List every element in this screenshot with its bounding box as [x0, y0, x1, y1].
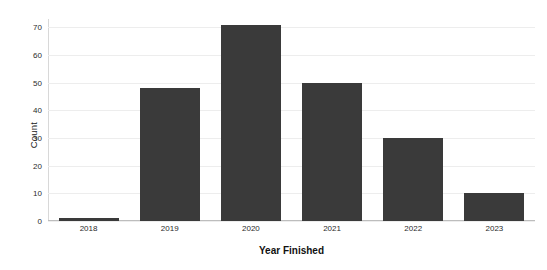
- y-tick-label: 60: [8, 50, 48, 59]
- y-tick-label: 70: [8, 23, 48, 32]
- y-axis-ticks: 010203040506070: [0, 19, 48, 221]
- y-tick-label: 0: [8, 217, 48, 226]
- bar-slot: [292, 19, 373, 221]
- bar[interactable]: [140, 88, 200, 221]
- x-axis-title: Year Finished: [48, 245, 535, 256]
- y-tick-label: 50: [8, 78, 48, 87]
- gridline: [48, 221, 535, 222]
- bar[interactable]: [302, 83, 362, 221]
- y-tick-label: 40: [8, 106, 48, 115]
- x-tick-label: 2023: [464, 224, 524, 233]
- y-tick-label: 30: [8, 133, 48, 142]
- x-tick-label: 2018: [59, 224, 119, 233]
- x-tick-label: 2019: [140, 224, 200, 233]
- y-tick-label: 20: [8, 161, 48, 170]
- bar-slot: [129, 19, 210, 221]
- bar-slot: [210, 19, 291, 221]
- bar-slot: [454, 19, 535, 221]
- bar[interactable]: [59, 218, 119, 221]
- x-tick-label: 2022: [383, 224, 443, 233]
- bar[interactable]: [464, 193, 524, 221]
- x-tick-label: 2021: [302, 224, 362, 233]
- bar-slot: [48, 19, 129, 221]
- x-axis-ticks: 201820192020202120222023: [48, 224, 535, 240]
- bar-chart: Count 010203040506070 201820192020202120…: [0, 0, 547, 270]
- bar-slot: [373, 19, 454, 221]
- bars-container: [48, 19, 535, 221]
- x-tick-label: 2020: [221, 224, 281, 233]
- bar[interactable]: [383, 138, 443, 221]
- bar[interactable]: [221, 25, 281, 221]
- y-tick-label: 10: [8, 189, 48, 198]
